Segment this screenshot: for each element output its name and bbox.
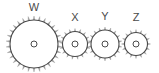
gear-z bbox=[122, 30, 151, 59]
gear-label-z: Z bbox=[116, 12, 156, 23]
gear-train-diagram: W X Y Z bbox=[0, 0, 159, 73]
gear-label-w: W bbox=[14, 2, 54, 13]
gear-y bbox=[88, 27, 121, 61]
gear-x bbox=[60, 29, 91, 60]
gear-w bbox=[6, 16, 62, 72]
